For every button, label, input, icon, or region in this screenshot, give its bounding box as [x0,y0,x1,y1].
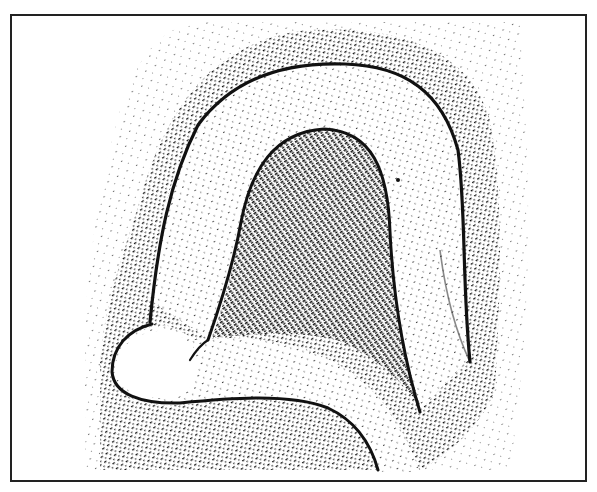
ink-speck [396,178,400,182]
stippled-arch-illustration [0,0,597,492]
